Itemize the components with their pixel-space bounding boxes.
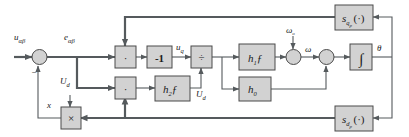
label-e-alpha-beta: eαβ: [64, 32, 75, 44]
block-diagram-canvas: · -1 ÷ h1ƒ ∫ · h2ƒ h0 sqp(·) sdp(·): [0, 0, 409, 137]
block-diagram-figure: · -1 ÷ h1ƒ ∫ · h2ƒ h0 sqp(·) sdp(·): [0, 0, 409, 137]
sum-junction-h0: [319, 50, 334, 65]
wire-h2f-to-divide: [190, 68, 201, 88]
gain-minus-one-label: -1: [155, 52, 164, 64]
label-x: x: [46, 100, 51, 110]
wire-theta-to-sdp: [373, 57, 392, 118]
label-u-q: uq: [176, 42, 185, 54]
sum-junction-omega: [286, 50, 301, 65]
label-minus-sign: −: [31, 67, 37, 77]
wire-h0-to-sum-h0: [271, 66, 326, 89]
label-Ud-mid: Ud: [196, 89, 207, 101]
label-omega-0: ωo: [286, 25, 295, 36]
wire-sqp-feedback-to-mult-top: [125, 17, 335, 46]
label-omega: ω: [305, 44, 311, 54]
mult-bottom-glyph: ·: [124, 83, 128, 95]
mult-top-glyph: ·: [124, 52, 128, 64]
label-Ud-left: Ud: [60, 76, 71, 88]
sum-junction-input: [32, 50, 47, 65]
wire-divide-branch-to-h0: [222, 57, 239, 89]
cross-multiplier-glyph: ×: [68, 112, 74, 124]
label-u-alpha-beta: uαβ: [14, 32, 26, 44]
divide-glyph: ÷: [198, 51, 204, 63]
wire-theta-to-sqp: [373, 17, 392, 57]
label-theta: θ: [377, 43, 382, 53]
wire-cross-to-sum-negative: [38, 66, 61, 118]
wire-ealphabeta-branch-down: [77, 57, 115, 88]
